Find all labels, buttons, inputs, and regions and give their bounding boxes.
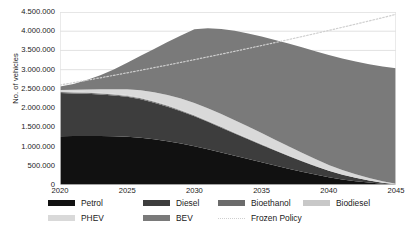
legend-item[interactable]: BEV — [143, 212, 193, 224]
legend-label: Petrol — [81, 199, 103, 208]
y-axis-tick-label: 500.000 — [28, 162, 55, 170]
legend-item[interactable]: Diesel — [143, 197, 199, 209]
legend-swatch-bioethanol — [218, 200, 245, 206]
x-axis-tick-label: 2045 — [376, 186, 409, 195]
y-axis-tick-label: 1.000.000 — [21, 143, 55, 151]
legend-swatch-petrol — [48, 200, 75, 206]
legend-swatch-phev — [48, 215, 75, 221]
x-axis-tick-label: 2020 — [40, 186, 80, 195]
legend-swatch-frozen-policy — [218, 218, 245, 219]
legend-label: Frozen Policy — [251, 214, 302, 223]
legend-item[interactable]: Biodiesel — [303, 197, 370, 209]
legend-swatch-biodiesel — [303, 200, 330, 206]
x-axis-tick-label: 2040 — [309, 186, 349, 195]
plot-area — [60, 12, 396, 185]
y-axis-tick-label: 3.000.000 — [21, 66, 55, 74]
legend-item[interactable]: Petrol — [48, 197, 103, 209]
legend-label: BEV — [176, 214, 193, 223]
legend-swatch-bev — [143, 215, 170, 221]
legend-label: Diesel — [176, 199, 199, 208]
legend-item[interactable]: Frozen Policy — [218, 212, 302, 224]
y-axis-tick-label: 2.500.000 — [21, 85, 55, 93]
legend-label: Biodiesel — [336, 199, 370, 208]
y-axis-tick-label: 2.000.000 — [21, 104, 55, 112]
plot-svg — [60, 12, 396, 185]
x-axis-tick-label: 2030 — [174, 186, 214, 195]
legend-item[interactable]: Bioethanol — [218, 197, 291, 209]
legend-swatch-diesel — [143, 200, 170, 206]
chart-legend: PetrolDieselBioethanolBiodieselPHEVBEVFr… — [0, 197, 403, 229]
x-axis-tick-label: 2025 — [107, 186, 147, 195]
y-axis-tick-label: 4.500.000 — [21, 8, 55, 16]
legend-item[interactable]: PHEV — [48, 212, 104, 224]
y-axis-tick-label: 4.000.000 — [21, 27, 55, 35]
y-axis-tick-label: 3.500.000 — [21, 46, 55, 54]
y-axis-tick-label: 1.500.000 — [21, 123, 55, 131]
legend-label: Bioethanol — [251, 199, 291, 208]
legend-label: PHEV — [81, 214, 104, 223]
x-axis-tick-label: 2035 — [242, 186, 282, 195]
